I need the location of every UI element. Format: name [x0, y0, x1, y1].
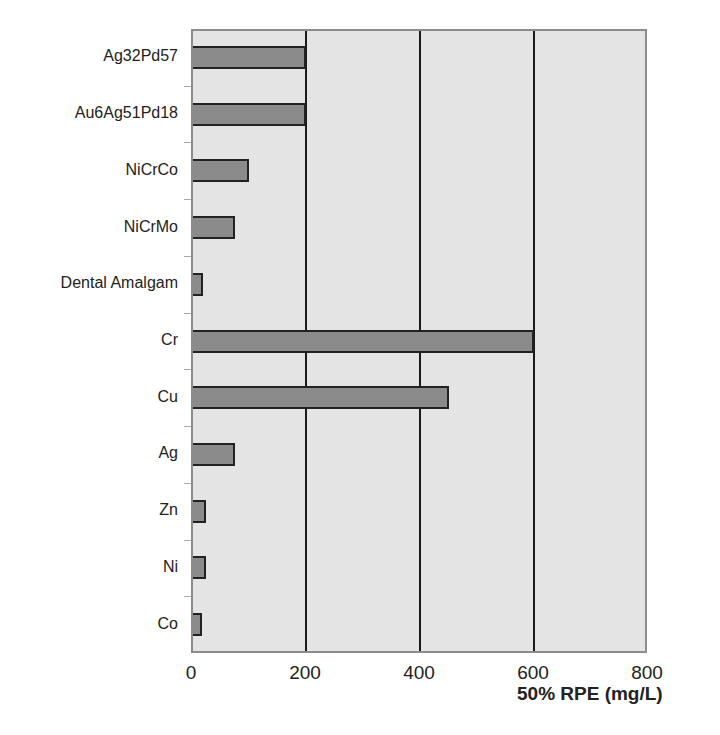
category-label: NiCrMo: [124, 217, 178, 237]
y-tick: [184, 313, 191, 314]
category-label: Ni: [163, 557, 178, 577]
category-label: Ag32Pd57: [103, 46, 178, 66]
x-tick-label: 400: [403, 662, 435, 684]
bar: [193, 386, 449, 409]
bar: [193, 273, 203, 296]
bar: [193, 216, 235, 239]
category-label: Au6Ag51Pd18: [75, 103, 178, 123]
category-label: Cr: [161, 330, 178, 350]
x-tick-label: 0: [186, 662, 197, 684]
y-tick: [184, 256, 191, 257]
bar: [193, 443, 235, 466]
bar: [193, 159, 249, 182]
y-tick: [184, 596, 191, 597]
bar: [193, 556, 206, 579]
x-axis-label: 50% RPE (mg/L): [517, 683, 663, 705]
category-label: Cu: [158, 387, 178, 407]
category-label: Dental Amalgam: [61, 273, 178, 293]
bar: [193, 46, 306, 69]
y-tick: [184, 483, 191, 484]
category-label: Co: [158, 614, 178, 634]
category-label: NiCrCo: [126, 160, 178, 180]
bar: [193, 330, 534, 353]
y-tick: [184, 369, 191, 370]
plot-area: [191, 29, 647, 653]
category-label: Ag: [158, 443, 178, 463]
x-tick-label: 600: [517, 662, 549, 684]
category-label: Zn: [159, 500, 178, 520]
bar: [193, 500, 206, 523]
y-tick: [184, 540, 191, 541]
y-tick: [184, 86, 191, 87]
x-tick-label: 800: [631, 662, 663, 684]
bar: [193, 103, 306, 126]
y-tick: [184, 426, 191, 427]
y-tick: [184, 199, 191, 200]
bar: [193, 613, 202, 636]
y-tick: [184, 142, 191, 143]
x-tick-label: 200: [289, 662, 321, 684]
